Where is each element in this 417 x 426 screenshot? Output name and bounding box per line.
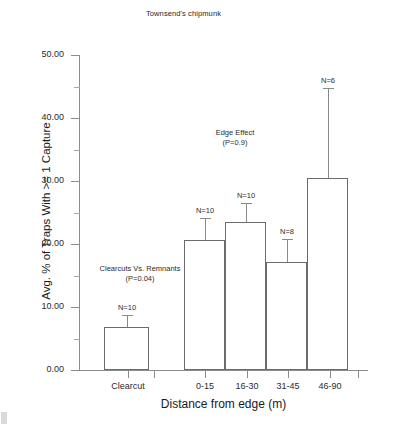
chart-figure: Townsend's chipmunk Avg. % of Traps With… <box>0 0 417 426</box>
error-bar-cap <box>323 88 334 89</box>
y-axis-tick <box>71 307 80 308</box>
sample-size-label: N=8 <box>267 227 307 236</box>
sample-size-label: N=10 <box>185 206 225 215</box>
y-axis-tick-label: 50.00 <box>18 49 64 59</box>
annotation-line-2: (P=0.9) <box>190 138 280 148</box>
y-axis-tick-label: 30.00 <box>18 175 64 185</box>
y-axis-tick-label: 20.00 <box>18 238 64 248</box>
annotation-edge-effect: Edge Effect (P=0.9) <box>190 128 280 148</box>
y-axis-minor-tick <box>74 339 80 340</box>
y-axis-minor-tick <box>74 87 80 88</box>
x-axis-title: Distance from edge (m) <box>79 397 368 411</box>
y-axis-tick-label: 40.00 <box>18 112 64 122</box>
bar-clearcut <box>104 327 149 370</box>
error-bar-stem <box>127 315 128 327</box>
annotation-line-1: Clearcuts Vs. Remnants <box>85 264 195 274</box>
y-axis-tick-label: 0.00 <box>18 364 64 374</box>
y-axis-tick <box>71 244 80 245</box>
sample-size-label: N=6 <box>308 76 348 85</box>
x-axis-tick-label: 46-90 <box>300 381 360 391</box>
bar-0-15 <box>184 240 225 370</box>
x-axis-tick <box>205 371 206 378</box>
y-axis-tick <box>71 181 80 182</box>
x-axis-tick <box>288 371 289 378</box>
chart-title: Townsend's chipmunk <box>0 9 417 18</box>
error-bar-cap <box>241 203 252 204</box>
error-bar-cap <box>200 218 211 219</box>
error-bar-stem <box>246 203 247 222</box>
x-axis-tick-label: Clearcut <box>98 381 158 391</box>
bar-16-30 <box>225 222 266 370</box>
x-axis-tick <box>330 371 331 378</box>
y-axis-minor-tick <box>74 276 80 277</box>
bar-46-90 <box>307 178 348 370</box>
error-bar-cap <box>282 239 293 240</box>
error-bar-stem <box>205 218 206 240</box>
error-bar-cap <box>122 315 133 316</box>
y-axis-minor-tick <box>74 150 80 151</box>
sample-size-label: N=10 <box>226 191 266 200</box>
annotation-clearcuts-vs-remnants: Clearcuts Vs. Remnants (P=0.04) <box>85 264 195 284</box>
x-axis-tick <box>247 371 248 378</box>
scan-artifact <box>1 412 7 424</box>
annotation-line-2: (P=0.04) <box>85 274 195 284</box>
bar-31-45 <box>266 262 307 370</box>
y-axis-tick-label: 10.00 <box>18 301 64 311</box>
x-axis-tick <box>154 371 155 378</box>
annotation-line-1: Edge Effect <box>190 128 280 138</box>
error-bar-stem <box>287 239 288 262</box>
y-axis-minor-tick <box>74 213 80 214</box>
y-axis-tick <box>71 55 80 56</box>
error-bar-stem <box>328 88 329 178</box>
sample-size-label: N=10 <box>107 303 147 312</box>
x-axis-line <box>79 370 368 371</box>
y-axis-tick <box>71 118 80 119</box>
x-axis-tick <box>128 371 129 378</box>
x-axis-tick <box>358 371 359 378</box>
